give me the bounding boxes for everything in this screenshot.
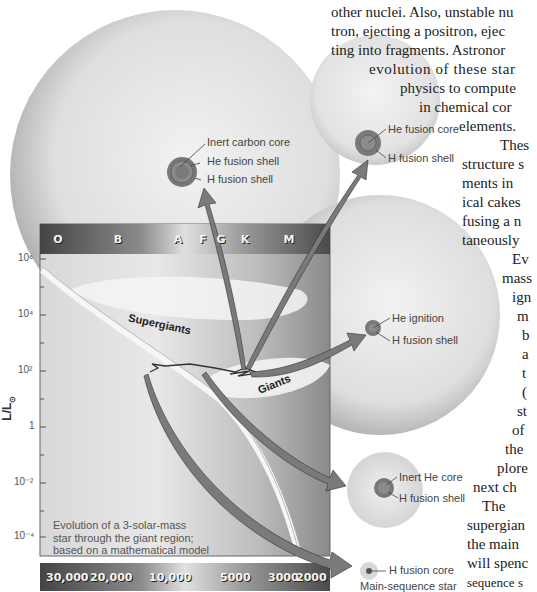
text-line: ments in <box>462 174 513 193</box>
main-sequence-caption: Main-sequence star <box>360 580 457 592</box>
text-line: of <box>512 421 525 440</box>
text-line: evolution of these star <box>369 60 516 79</box>
y-tick-label: 1 <box>29 420 35 431</box>
label-inert-he-core: Inert He core <box>399 471 463 483</box>
spectral-class-k: K <box>235 224 255 254</box>
spectral-class-a: A <box>168 224 188 254</box>
text-line: mass <box>502 269 532 288</box>
spectral-class-row: O B A F G K M <box>40 224 330 254</box>
label-h-fusion-shell: H fusion shell <box>388 152 454 164</box>
y-axis-label-main: L/L <box>0 403 14 421</box>
text-line: ( <box>522 383 527 402</box>
x-tick-label: 30,000 <box>46 563 88 591</box>
y-tick-label: 10⁻² <box>14 476 33 487</box>
text-line: The <box>482 497 505 516</box>
y-tick-label: 10⁶ <box>18 252 33 263</box>
text-line: ting into fragments. Astronor <box>331 41 505 60</box>
text-line: taneously <box>462 231 520 250</box>
label-he-ignition: He ignition <box>392 312 444 324</box>
x-tick-label: 20,000 <box>90 563 132 591</box>
text-line: tron, ejecting a positron, ejec <box>331 22 505 41</box>
text-line: b <box>522 326 530 345</box>
x-tick-label: 3000 <box>268 563 299 591</box>
annotation-line: star through the giant region; <box>53 532 209 545</box>
text-line: a <box>522 345 529 364</box>
text-line: st <box>517 402 527 421</box>
spectral-class-b: B <box>108 224 128 254</box>
spectral-class-g: G <box>211 224 231 254</box>
text-line: ical cakes <box>462 193 521 212</box>
text-line: supergian <box>467 516 525 535</box>
text-line: structure s <box>462 155 524 174</box>
label-h-fusion-core: H fusion core <box>389 564 454 576</box>
text-line: other nuclei. Also, unstable nu <box>331 3 513 22</box>
x-tick-label: 2000 <box>296 563 327 591</box>
text-line: in chemical cor <box>419 98 511 117</box>
text-line: ign <box>512 288 531 307</box>
text-line: sequence s <box>467 573 523 592</box>
text-line: fusing a n <box>462 212 521 231</box>
chart-annotation: Evolution of a 3-solar-mass star through… <box>53 519 209 557</box>
text-line: t <box>522 364 526 383</box>
label-h-fusion-shell: H fusion shell <box>399 492 465 504</box>
temperature-axis: 30,000 20,000 10,000 5000 3000 2000 <box>40 563 330 591</box>
y-tick-label: 10⁴ <box>18 308 33 319</box>
text-line: the <box>505 440 523 459</box>
annotation-line: based on a mathematical model <box>53 544 209 557</box>
text-line: m <box>517 307 529 326</box>
spectral-class-f: F <box>193 224 213 254</box>
y-axis-label: L/L⊙ <box>0 396 16 421</box>
label-h-fusion-shell: H fusion shell <box>207 173 273 185</box>
label-inert-carbon-core: Inert carbon core <box>207 136 290 148</box>
y-tick-label: 10² <box>18 364 32 375</box>
text-line: Thes <box>500 136 529 155</box>
text-line: physics to compute <box>400 79 516 98</box>
y-axis-label-sub: ⊙ <box>8 396 17 403</box>
y-tick-label: 10⁻⁴ <box>14 530 34 541</box>
text-line: plore <box>497 459 528 478</box>
x-tick-label: 10,000 <box>149 563 191 591</box>
annotation-line: Evolution of a 3-solar-mass <box>53 519 209 532</box>
spectral-class-m: M <box>279 224 299 254</box>
x-tick-label: 5000 <box>220 563 251 591</box>
label-he-fusion-shell: He fusion shell <box>207 155 279 167</box>
text-line: next ch <box>473 478 517 497</box>
text-line: elements. <box>459 117 516 136</box>
label-h-fusion-shell: H fusion shell <box>392 334 458 346</box>
label-he-fusion-core: He fusion core <box>388 123 459 135</box>
text-line: the main <box>467 535 519 554</box>
text-line: will spenc <box>467 554 528 573</box>
spectral-class-o: O <box>48 224 68 254</box>
text-line: Ev <box>512 250 529 269</box>
